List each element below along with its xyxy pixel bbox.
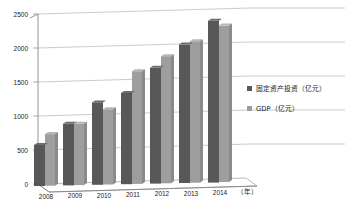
x-tick-label: 2014 — [213, 189, 228, 196]
bar-gdp-2013 — [190, 39, 203, 183]
y-tick-label: 500 — [17, 147, 28, 154]
legend-swatch-dark — [247, 86, 252, 91]
bar-gdp-2012 — [161, 54, 174, 183]
x-tick-label: 2010 — [97, 192, 112, 199]
bar-gdp-2011 — [132, 69, 145, 184]
bar-chart: 2500 2000 1500 1000 500 0 — [0, 0, 353, 214]
y-tick-label: 1500 — [14, 79, 29, 86]
bar-gdp-2014 — [219, 24, 232, 182]
x-tick-label: 2011 — [126, 191, 140, 198]
legend-label-gdp: GDP（亿元） — [256, 104, 299, 113]
x-tick-label: 2008 — [39, 193, 54, 200]
chart-canvas: 2500 2000 1500 1000 500 0 — [0, 0, 353, 214]
bar-group-2010 — [92, 100, 116, 184]
y-tick-label: 0 — [24, 181, 28, 188]
legend-label-investment: 固定资产投资（亿元） — [256, 84, 326, 93]
bar-group-2011 — [121, 69, 145, 184]
x-tick-label: 2012 — [155, 190, 170, 197]
y-tick-label: 2000 — [14, 45, 29, 52]
bar-gdp-2010 — [103, 107, 116, 184]
bar-group-2013 — [179, 39, 203, 183]
bar-gdp-2008 — [45, 132, 58, 186]
x-axis-unit-label: （年） — [237, 187, 258, 196]
bar-group-2009 — [63, 122, 87, 186]
y-tick-label: 2500 — [14, 11, 29, 18]
legend-swatch-light — [247, 106, 252, 111]
chart-legend: 固定资产投资（亿元） GDP（亿元） — [247, 84, 326, 113]
x-tick-label: 2013 — [184, 190, 199, 197]
bar-group-2014 — [208, 19, 232, 183]
bar-gdp-2009 — [74, 122, 87, 185]
y-tick-labels: 2500 2000 1500 1000 500 0 — [14, 11, 29, 188]
x-tick-label: 2009 — [68, 192, 83, 199]
bar-group-2012 — [150, 54, 174, 183]
y-tick-label: 1000 — [14, 113, 29, 120]
gridline-2500 — [38, 8, 345, 14]
